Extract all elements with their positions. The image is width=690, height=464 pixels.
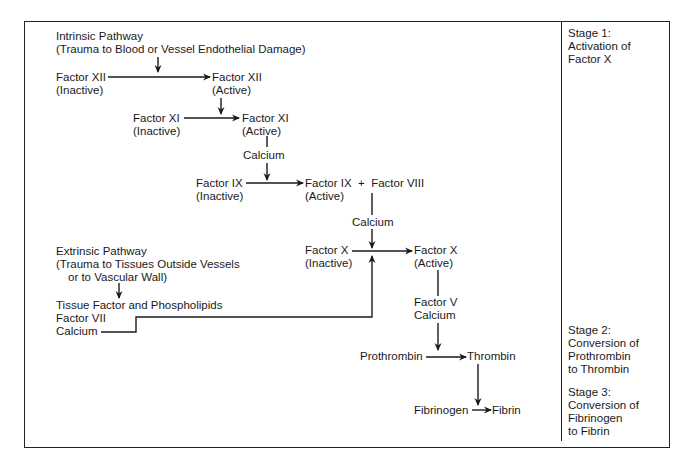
thrombin-label: Thrombin: [467, 350, 516, 363]
extrinsic-calcium-label: Calcium: [56, 325, 98, 338]
factor-vii-label: Factor VII: [56, 312, 106, 325]
factor-xi-active-label: Factor XI: [242, 112, 289, 125]
factor-xii-inactive-label: Factor XII: [56, 71, 106, 84]
stage-1-label: Stage 1: Activation of Factor X: [568, 27, 631, 66]
stage-3-desc-2: Fibrinogen: [568, 412, 639, 425]
stage-1-desc-1: Activation of: [568, 40, 631, 53]
extrinsic-pathway-subtitle-1: (Trauma to Tissues Outside Vessels: [56, 258, 240, 271]
factor-xii-inactive-state: (Inactive): [56, 84, 103, 97]
stage-3-title: Stage 3:: [568, 386, 639, 399]
stage-2-label: Stage 2: Conversion of Prothrombin to Th…: [568, 324, 639, 376]
factor-x-active-state: (Active): [414, 257, 453, 270]
extrinsic-pathway-subtitle-2: or to Vascular Wall): [68, 271, 167, 284]
prothrombin-label: Prothrombin: [360, 350, 423, 363]
factor-ix-viii-active-label: Factor IX + Factor VIII: [305, 177, 424, 190]
factor-xi-inactive-state: (Inactive): [133, 125, 180, 138]
fibrinogen-label: Fibrinogen: [414, 404, 468, 417]
fibrin-label: Fibrin: [492, 404, 521, 417]
stage-3-desc-3: to Fibrin: [568, 425, 639, 438]
stage-2-desc-2: Prothrombin: [568, 350, 639, 363]
stage-2-title: Stage 2:: [568, 324, 639, 337]
factor-x-inactive-state: (Inactive): [305, 257, 352, 270]
calcium-label-1: Calcium: [243, 149, 285, 162]
factor-ix-inactive-label: Factor IX: [196, 177, 243, 190]
tissue-factor-label: Tissue Factor and Phospholipids: [56, 299, 222, 312]
extrinsic-pathway-title: Extrinsic Pathway: [56, 245, 147, 258]
common-calcium-label: Calcium: [414, 309, 456, 322]
stage-2-desc-1: Conversion of: [568, 337, 639, 350]
stage-3-label: Stage 3: Conversion of Fibrinogen to Fib…: [568, 386, 639, 438]
stage-1-desc-2: Factor X: [568, 53, 631, 66]
factor-ix-inactive-state: (Inactive): [196, 190, 243, 203]
factor-x-inactive-label: Factor X: [305, 244, 348, 257]
factor-ix-active-state: (Active): [305, 190, 344, 203]
factor-v-label: Factor V: [414, 296, 457, 309]
calcium-label-2: Calcium: [352, 216, 394, 229]
factor-xi-active-state: (Active): [242, 125, 281, 138]
stage-2-desc-3: to Thrombin: [568, 363, 639, 376]
stage-1-title: Stage 1:: [568, 27, 631, 40]
factor-xi-inactive-label: Factor XI: [133, 112, 180, 125]
intrinsic-pathway-subtitle: (Trauma to Blood or Vessel Endothelial D…: [56, 43, 306, 56]
factor-x-active-label: Factor X: [414, 244, 457, 257]
factor-xii-active-state: (Active): [212, 84, 251, 97]
factor-xii-active-label: Factor XII: [212, 71, 262, 84]
stage-3-desc-1: Conversion of: [568, 399, 639, 412]
intrinsic-pathway-title: Intrinsic Pathway: [56, 30, 143, 43]
